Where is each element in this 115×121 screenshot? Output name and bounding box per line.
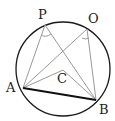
label-A: A <box>5 80 16 95</box>
angle-mark-O <box>82 38 89 39</box>
label-C: C <box>57 71 67 86</box>
label-O: O <box>88 11 99 26</box>
label-B: B <box>99 102 109 117</box>
segment-AP <box>23 25 45 88</box>
angle-mark-P <box>41 34 51 36</box>
segment-AO <box>23 29 87 88</box>
label-P: P <box>38 7 47 22</box>
circle-diagram: P O A C B <box>0 0 115 121</box>
